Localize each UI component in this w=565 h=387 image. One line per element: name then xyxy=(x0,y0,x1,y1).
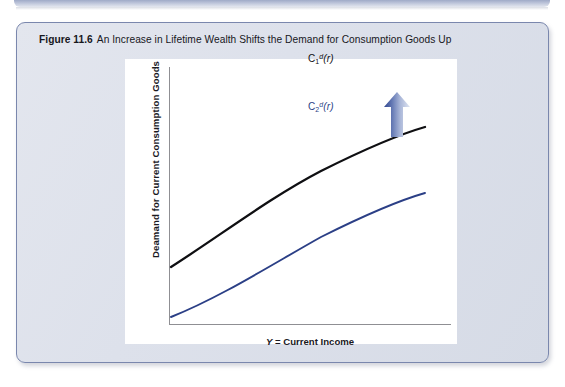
curve-label-c1: C1d(r) xyxy=(308,53,334,65)
curve-label-c2: C2d(r) xyxy=(308,101,334,113)
plot-canvas: Deamand for Current Consumption Goods Y … xyxy=(125,59,457,344)
curve-c2-lower xyxy=(171,193,425,317)
up-arrow-icon xyxy=(384,92,410,137)
curve-label-c1-suffix: (r) xyxy=(323,53,333,64)
figure-panel: Figure 11.6An Increase in Lifetime Wealt… xyxy=(16,22,549,363)
figure-caption: Figure 11.6An Increase in Lifetime Wealt… xyxy=(39,34,532,45)
figure-number: Figure 11.6 xyxy=(39,34,93,45)
page-top-strip xyxy=(14,0,550,7)
curves-layer xyxy=(125,59,457,344)
curve-c1-upper xyxy=(171,127,425,267)
curve-label-c2-suffix: (r) xyxy=(323,101,333,112)
page-top-strip-shadow xyxy=(16,7,548,10)
